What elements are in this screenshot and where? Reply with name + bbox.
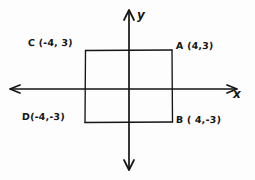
diagram-canvas: C (-4, 3) A (4,3) D(-4,-3) B ( 4,-3) y x (0, 0, 255, 180)
vertex-label-b: B ( 4,-3) (176, 114, 222, 125)
vertex-label-d: D(-4,-3) (22, 111, 65, 122)
rectangle-right-edge (172, 50, 173, 122)
vertex-label-c: C (-4, 3) (28, 37, 73, 48)
y-axis-label: y (137, 8, 145, 22)
rectangle-left-edge (85, 51, 86, 123)
rectangle-top-edge (86, 50, 173, 51)
coordinate-plane-figure (0, 0, 255, 180)
vertex-label-a: A (4,3) (176, 40, 214, 51)
x-axis-label: x (233, 87, 241, 101)
rectangle-bottom-edge (85, 122, 173, 123)
